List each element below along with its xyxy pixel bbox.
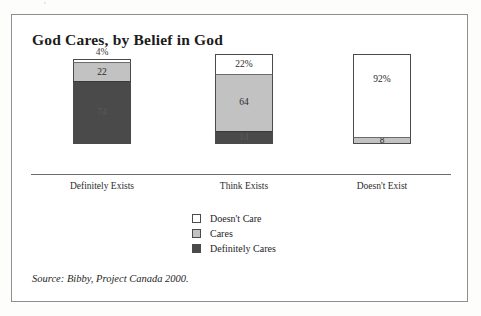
legend-swatch-gray-icon [192,229,201,238]
legend-label-doesnt-care: Doesn't Care [210,213,262,224]
bar-stack-doesnt-exist[interactable]: 92% 8 [353,54,411,144]
bar-3-segment-doesnt-care[interactable]: 92% [353,54,411,137]
category-label-doesnt-exist: Doesn't Exist [317,181,447,191]
category-label-definitely-exists: Definitely Exists [37,181,167,191]
bar-1-segment-definitely-cares[interactable]: 74 [73,81,131,144]
chart-legend: Doesn't Care Cares Definitely Cares [192,211,276,256]
bar-1-segment-1-label: 4% [73,47,131,57]
bar-3-segment-2-label: 8 [380,137,385,144]
bar-3-segment-1-label: 92% [373,75,390,85]
legend-swatch-dark-icon [192,244,201,253]
x-axis-line [31,174,451,175]
bar-2-segment-3-label: 14 [239,133,249,143]
source-note: Source: Bibby, Project Canada 2000. [32,273,189,284]
bar-2-segment-definitely-cares[interactable]: 14 [215,131,273,144]
bar-2-segment-1-label: 22% [235,60,252,70]
legend-item-cares[interactable]: Cares [192,226,276,241]
category-label-think-exists: Think Exists [179,181,309,191]
figure-frame: God Cares, by Belief in God 4% 22 74 Def… [11,14,468,302]
bar-stack-think-exists[interactable]: 22% 64 14 [215,54,273,144]
bar-stack-definitely-exists[interactable]: 22 74 [73,59,131,144]
scan-artifact: ' [44,3,50,8]
legend-label-cares: Cares [210,228,233,239]
legend-item-definitely-cares[interactable]: Definitely Cares [192,241,276,256]
bar-1-segment-cares[interactable]: 22 [73,62,131,81]
bar-1-segment-2-label: 22 [97,68,107,78]
bar-3-segment-cares[interactable]: 8 [353,137,411,144]
bar-2-segment-2-label: 64 [239,98,249,108]
legend-swatch-white-icon [192,214,201,223]
plot-area: 4% 22 74 Definitely Exists 22% 64 [12,15,467,301]
bar-2-segment-doesnt-care[interactable]: 22% [215,54,273,74]
legend-label-definitely-cares: Definitely Cares [210,243,276,254]
bar-1-segment-3-label: 74 [97,108,107,118]
bar-2-segment-cares[interactable]: 64 [215,74,273,132]
legend-item-doesnt-care[interactable]: Doesn't Care [192,211,276,226]
